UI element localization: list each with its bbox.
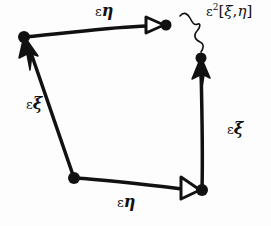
- eta-symbol: η: [124, 192, 136, 211]
- xi-symbol: ξ: [33, 94, 42, 113]
- bracket-close: ]: [246, 2, 252, 20]
- node-top-right: [161, 20, 172, 31]
- eta-symbol: η: [102, 1, 114, 20]
- label-commutator: ε2[ξ,η]: [206, 4, 252, 19]
- xi-symbol: ξ: [224, 2, 232, 20]
- label-right-xi: εξ: [227, 121, 243, 137]
- epsilon-symbol: ε: [26, 97, 33, 112]
- label-bottom-eta: εη: [117, 194, 135, 210]
- label-top-eta: εη: [95, 3, 113, 19]
- edge-left-xi: [30, 50, 74, 178]
- commutator-diagram: εη εξ εη εξ ε2[ξ,η]: [0, 0, 271, 226]
- edge-top-eta: [24, 26, 147, 37]
- epsilon-symbol: ε: [227, 122, 234, 137]
- node-bottom-right: [196, 184, 208, 196]
- xi-symbol: ξ: [234, 119, 243, 138]
- node-right-xi-end: [196, 53, 207, 64]
- node-bottom-left: [68, 172, 80, 184]
- epsilon-symbol: ε: [117, 195, 124, 210]
- edge-bottom-eta: [74, 178, 182, 189]
- epsilon-symbol: ε: [95, 4, 102, 19]
- node-top-left: [18, 31, 30, 43]
- label-left-xi: εξ: [26, 96, 42, 112]
- commutator-squiggle: [180, 13, 203, 52]
- epsilon-symbol: ε: [206, 4, 213, 19]
- diagram-drawing: [0, 0, 271, 226]
